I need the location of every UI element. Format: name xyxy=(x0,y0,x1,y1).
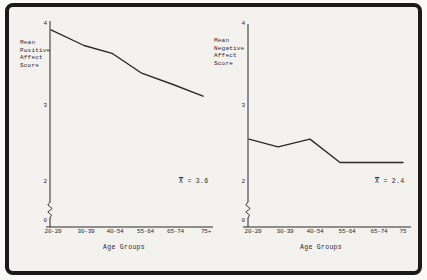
x-category-label: 20-29 xyxy=(238,229,268,235)
mean-annotation-negative: X = 2.4 xyxy=(375,178,404,185)
x-category-label: 75 xyxy=(388,229,418,235)
y-tick-label: 0 xyxy=(231,218,245,224)
y-axis-title-line: Negative xyxy=(214,45,244,52)
y-axis-title-negative: MeanNegativeAffectScore xyxy=(214,37,244,67)
x-axis-title-negative: Age Groups xyxy=(286,244,356,251)
x-category-label: 30-39 xyxy=(270,229,300,235)
x-category-label: 55-64 xyxy=(332,229,362,235)
y-tick-label: 3 xyxy=(231,103,245,109)
mean-value-text: = 2.4 xyxy=(379,178,404,185)
y-tick-label: 4 xyxy=(231,21,245,27)
y-tick-label: 2 xyxy=(231,179,245,185)
x-category-label: 40-54 xyxy=(300,229,330,235)
y-axis-title-line: Affect xyxy=(214,52,237,59)
y-axis-title-line: Mean xyxy=(214,37,229,44)
chart-negative-affect: MeanNegativeAffectScore X = 2.4 Age Grou… xyxy=(0,0,427,280)
y-axis-title-line: Score xyxy=(214,60,233,67)
figure: MeanPositiveAffectScore X = 3.6 Age Grou… xyxy=(0,0,427,280)
